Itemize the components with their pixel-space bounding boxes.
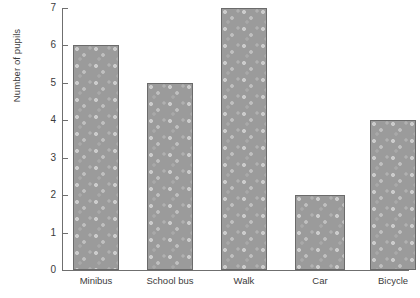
bar-bicycle (370, 120, 416, 270)
bar-walk (221, 8, 267, 270)
bar-school-bus (147, 83, 193, 270)
bar-minibus (73, 45, 119, 270)
bar-car (295, 195, 345, 270)
category-label-bicycle: Bicycle (343, 276, 420, 286)
